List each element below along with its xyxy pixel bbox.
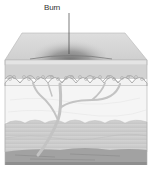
- skin-diagram: Burn: [0, 0, 152, 171]
- burn-label: Burn: [44, 3, 60, 12]
- skin-cross-section-illustration: [0, 0, 152, 171]
- subcutaneous-fat-layer: [5, 120, 147, 152]
- epidermis-layer: [5, 65, 147, 86]
- dermis-layer: [5, 86, 147, 122]
- muscle-layer: [5, 148, 147, 165]
- skin-surface: [5, 33, 147, 70]
